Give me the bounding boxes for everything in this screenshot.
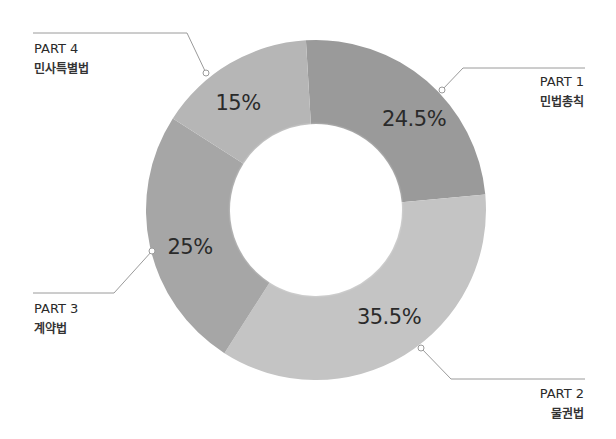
callout-part-name: 민법총칙 xyxy=(540,92,584,112)
percent-label-part-1: 24.5% xyxy=(382,107,446,131)
callout-part-1: PART 1 민법총칙 xyxy=(540,72,584,112)
leader-line-part-3 xyxy=(33,251,152,293)
donut-chart xyxy=(0,0,616,439)
donut-hole xyxy=(228,122,404,298)
callout-part-name: 민사특별법 xyxy=(34,59,89,79)
percent-label-part-2: 35.5% xyxy=(357,305,421,329)
leader-dot-part-1 xyxy=(439,87,445,93)
callout-part-2: PART 2 물권법 xyxy=(540,384,584,424)
leader-line-part-2 xyxy=(421,348,585,379)
callout-part-number: PART 3 xyxy=(34,299,78,319)
percent-label-part-3: 25% xyxy=(167,235,212,259)
percent-label-part-4: 15% xyxy=(215,91,260,115)
callout-part-number: PART 1 xyxy=(540,72,584,92)
callout-part-number: PART 2 xyxy=(540,384,584,404)
callout-part-name: 물권법 xyxy=(540,404,584,424)
callout-part-3: PART 3 계약법 xyxy=(34,299,78,339)
leader-dot-part-2 xyxy=(418,345,424,351)
leader-dot-part-3 xyxy=(149,248,155,254)
callout-part-number: PART 4 xyxy=(34,39,89,59)
callout-part-name: 계약법 xyxy=(34,319,78,339)
leader-dot-part-4 xyxy=(203,70,209,76)
callout-part-4: PART 4 민사특별법 xyxy=(34,39,89,79)
